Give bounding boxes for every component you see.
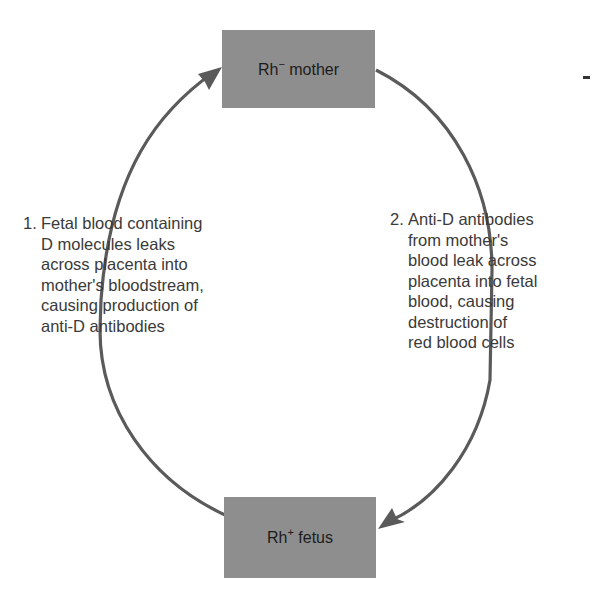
step-line: red blood cells <box>408 332 600 353</box>
node-label: Rh− mother <box>258 59 339 79</box>
step-number: 2. <box>390 209 404 230</box>
step-line: from mother's <box>408 230 600 251</box>
node-label: Rh+ fetus <box>267 527 333 547</box>
step-line: across placenta into <box>41 254 273 275</box>
step-line: Fetal blood containing <box>41 213 273 234</box>
step-line: Anti-D antibodies <box>408 209 600 230</box>
rh-sign: + <box>287 526 293 538</box>
step-2-description: 2. Anti-D antibodies from mother's blood… <box>390 209 600 353</box>
step-line: blood, causing <box>408 291 600 312</box>
rh-sign: − <box>278 58 284 70</box>
step-line: destruction of <box>408 312 600 333</box>
arrowhead-down-icon <box>378 508 405 529</box>
step-line: D molecules leaks <box>41 234 273 255</box>
step-number: 1. <box>23 213 37 234</box>
node-rh-negative-mother: Rh− mother <box>222 30 375 108</box>
node-rh-positive-fetus: Rh+ fetus <box>224 497 376 578</box>
step-1-description: 1. Fetal blood containing D molecules le… <box>23 213 273 336</box>
print-speck <box>583 76 590 79</box>
step-line: mother's bloodstream, <box>41 275 273 296</box>
arrowhead-up-icon <box>198 67 222 90</box>
step-line: causing production of <box>41 295 273 316</box>
step-line: placenta into fetal <box>408 271 600 292</box>
step-line: anti-D antibodies <box>41 316 273 337</box>
step-line: blood leak across <box>408 250 600 271</box>
